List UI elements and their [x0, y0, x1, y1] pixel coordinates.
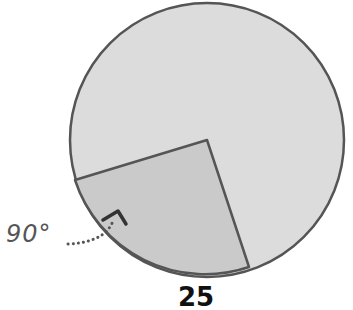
- bottom-label: 25: [178, 284, 214, 310]
- angle-label: 90°: [6, 220, 52, 248]
